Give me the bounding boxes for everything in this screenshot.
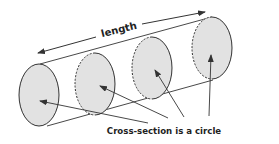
- cross-section-1: [19, 64, 59, 126]
- cross-section-2: [75, 53, 115, 115]
- length-arrow-left: [38, 37, 96, 53]
- cylinder-cross-section-diagram: length Cross-section is a circle: [0, 0, 279, 144]
- cross-section-4: [192, 17, 232, 79]
- length-label: length: [100, 20, 138, 39]
- length-arrow-right: [142, 12, 205, 24]
- caption-label: Cross-section is a circle: [107, 126, 222, 136]
- cross-section-3: [132, 37, 172, 99]
